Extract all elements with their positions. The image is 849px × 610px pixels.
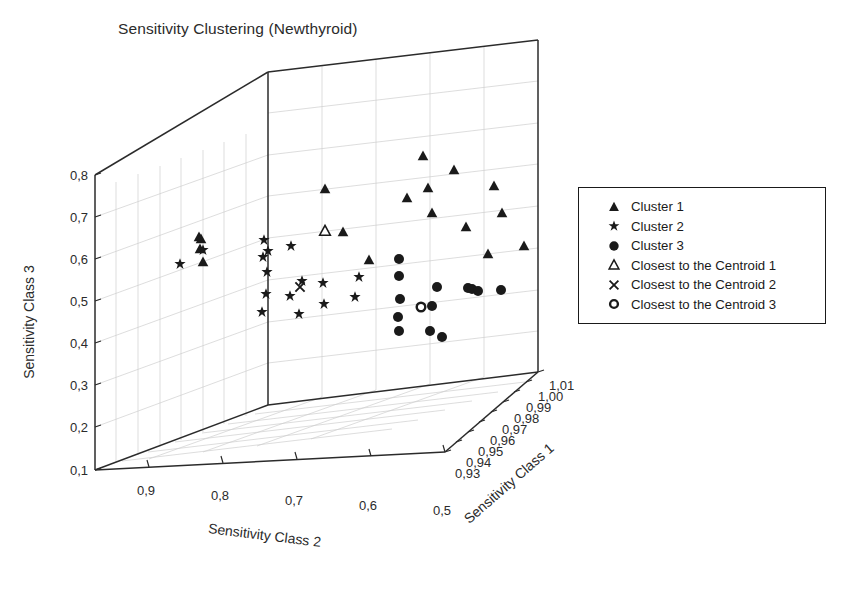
data-point bbox=[394, 271, 404, 281]
legend-item-centroid-1[interactable]: Closest to the Centroid 1 bbox=[579, 256, 825, 276]
data-point bbox=[394, 254, 404, 264]
legend: Cluster 1 Cluster 2 Cluster 3 bbox=[578, 187, 826, 324]
z-tick-label: 0,6 bbox=[70, 252, 88, 267]
open-triangle-icon bbox=[601, 256, 627, 275]
series-cluster-1 bbox=[194, 150, 530, 266]
data-point bbox=[425, 326, 435, 336]
z-tick-label: 0,8 bbox=[70, 168, 88, 183]
data-point bbox=[364, 254, 375, 264]
legend-item-cluster-1[interactable]: Cluster 1 bbox=[579, 197, 825, 217]
legend-label: Cluster 1 bbox=[627, 197, 684, 216]
axis-frame bbox=[95, 40, 538, 470]
x-axis-label: Sensitivity Class 2 bbox=[207, 520, 322, 550]
y-axis-ticks: 0,93 0,94 0,95 0,96 0,97 0,98 0,99 1,00 … bbox=[445, 370, 574, 527]
x-tick-label: 0,5 bbox=[433, 503, 451, 518]
z-tick-label: 0,3 bbox=[70, 378, 88, 393]
grid-lines bbox=[95, 46, 538, 463]
data-point bbox=[395, 294, 405, 304]
data-point bbox=[317, 277, 328, 288]
legend-item-cluster-2[interactable]: Cluster 2 bbox=[579, 217, 825, 237]
series-closest-to-the-centroid-3 bbox=[417, 303, 426, 312]
data-point bbox=[418, 150, 429, 160]
x-tick-label: 0,6 bbox=[359, 498, 377, 513]
data-point bbox=[285, 240, 296, 251]
data-point bbox=[338, 226, 349, 236]
y-axis-label: Sensitivity Class 1 bbox=[461, 440, 557, 527]
filled-star-icon bbox=[601, 217, 627, 236]
data-point bbox=[423, 182, 434, 192]
legend-label: Closest to the Centroid 1 bbox=[627, 256, 776, 275]
z-axis-label: Sensitivity Class 3 bbox=[21, 265, 37, 379]
legend-item-cluster-3[interactable]: Cluster 3 bbox=[579, 236, 825, 256]
data-point bbox=[320, 183, 331, 193]
legend-item-centroid-3[interactable]: Closest to the Centroid 3 bbox=[579, 295, 825, 315]
data-point bbox=[496, 285, 506, 295]
z-tick-label: 0,1 bbox=[70, 463, 88, 478]
legend-label: Closest to the Centroid 2 bbox=[627, 275, 776, 294]
z-axis-ticks: 0,8 0,7 0,6 0,5 0,4 0,3 0,2 0,1 Sensitiv… bbox=[21, 168, 101, 478]
series-closest-to-the-centroid-1 bbox=[320, 225, 331, 235]
data-point bbox=[473, 286, 483, 296]
legend-list: Cluster 1 Cluster 2 Cluster 3 bbox=[579, 188, 825, 323]
data-point bbox=[402, 192, 413, 202]
data-point bbox=[437, 332, 447, 342]
open-circle-icon bbox=[601, 295, 627, 314]
z-tick-label: 0,7 bbox=[70, 210, 88, 225]
data-point bbox=[393, 312, 403, 322]
data-point bbox=[394, 326, 404, 336]
x-axis-ticks: 0,9 0,8 0,7 0,6 0,5 Sensitivity Class 2 bbox=[137, 445, 451, 550]
filled-triangle-icon bbox=[601, 197, 627, 216]
legend-label: Closest to the Centroid 3 bbox=[627, 295, 776, 314]
y-tick-label: 1,01 bbox=[549, 378, 574, 393]
filled-circle-icon bbox=[601, 236, 627, 255]
data-point bbox=[293, 308, 304, 319]
data-point bbox=[461, 221, 472, 231]
z-tick-label: 0,5 bbox=[70, 294, 88, 309]
x-tick-label: 0,7 bbox=[285, 493, 303, 508]
legend-item-centroid-2[interactable]: Closest to the Centroid 2 bbox=[579, 275, 825, 295]
data-point bbox=[260, 288, 271, 299]
data-point bbox=[417, 303, 426, 312]
x-tick-label: 0,8 bbox=[211, 488, 229, 503]
data-point bbox=[427, 207, 438, 217]
data-point bbox=[284, 290, 295, 301]
data-point bbox=[261, 266, 272, 277]
figure-3d-scatter: Sensitivity Clustering (Newthyroid) bbox=[0, 0, 849, 610]
data-point bbox=[349, 291, 360, 302]
x-tick-label: 0,9 bbox=[137, 483, 155, 498]
data-point bbox=[353, 271, 364, 282]
legend-label: Cluster 3 bbox=[627, 236, 684, 255]
data-point bbox=[427, 301, 437, 311]
data-point bbox=[256, 306, 267, 317]
data-point bbox=[489, 180, 500, 190]
data-point bbox=[497, 207, 508, 217]
data-point bbox=[318, 298, 329, 309]
series-cluster-3 bbox=[393, 254, 506, 342]
data-point bbox=[449, 164, 460, 174]
data-point bbox=[432, 282, 442, 292]
data-point bbox=[519, 240, 530, 250]
cross-x-icon bbox=[601, 275, 627, 294]
z-tick-label: 0,2 bbox=[70, 420, 88, 435]
legend-label: Cluster 2 bbox=[627, 217, 684, 236]
data-point bbox=[198, 256, 209, 266]
data-point bbox=[320, 225, 331, 235]
data-points-layer bbox=[174, 150, 529, 342]
z-tick-label: 0,4 bbox=[70, 336, 88, 351]
data-point bbox=[174, 258, 185, 269]
